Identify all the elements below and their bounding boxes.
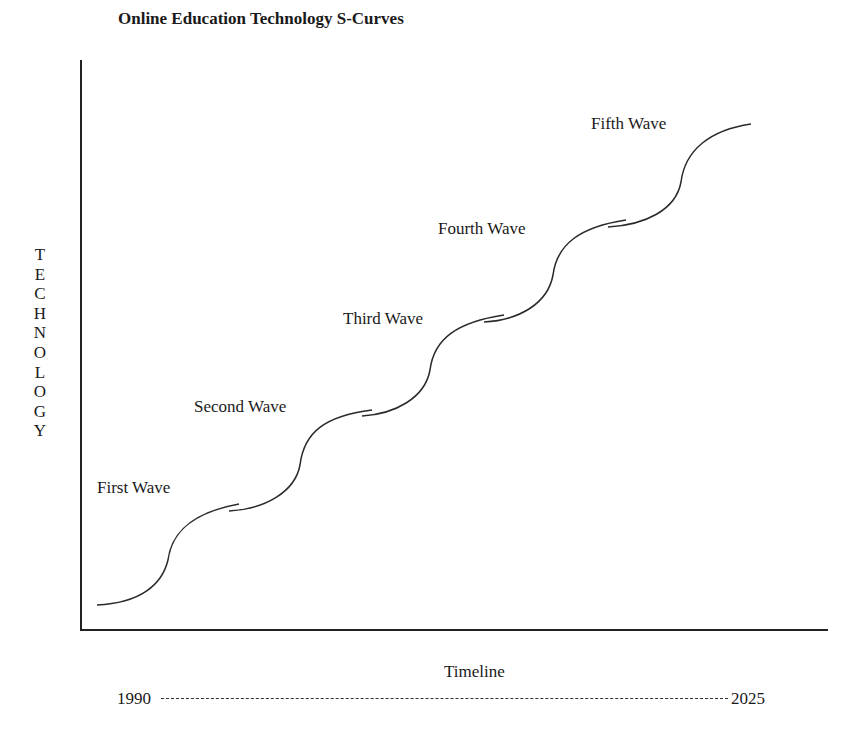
label-third-wave: Third Wave	[343, 309, 423, 329]
timeline-start: 1990	[117, 689, 151, 709]
s-curve-third-wave	[362, 315, 504, 416]
label-first-wave: First Wave	[97, 478, 170, 498]
x-axis-label: Timeline	[444, 662, 505, 682]
timeline-range: 1990 2025	[117, 689, 765, 709]
s-curve-fifth-wave	[608, 124, 751, 227]
s-curve-first-wave	[97, 504, 239, 605]
label-fifth-wave: Fifth Wave	[591, 114, 666, 134]
label-second-wave: Second Wave	[194, 397, 286, 417]
s-curve-second-wave	[229, 410, 372, 511]
timeline-end: 2025	[731, 689, 765, 709]
timeline-dashed-line	[161, 698, 728, 699]
label-fourth-wave: Fourth Wave	[438, 219, 526, 239]
plot-area	[0, 0, 855, 742]
